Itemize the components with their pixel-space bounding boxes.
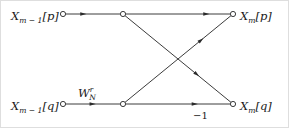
label-minus-one-value: −1 [193, 110, 208, 121]
label-output-p-sub: m [248, 16, 255, 25]
input-node-p [60, 11, 65, 16]
label-input-q-index: [q] [42, 99, 58, 113]
label-output-p-base: X [240, 9, 248, 23]
label-input-p: Xm − 1[p] [11, 7, 59, 23]
label-output-p: Xm[p] [240, 7, 272, 23]
output-node-p [230, 11, 235, 16]
arrowhead-layer [80, 12, 209, 106]
edge-in-q-to-mid-q-arrowhead [90, 102, 96, 106]
label-output-q-sub: m [248, 106, 255, 115]
input-node-q [60, 101, 65, 106]
label-input-p-sub: m − 1 [19, 16, 42, 25]
label-minus-one: −1 [193, 106, 208, 122]
label-input-q-sub: m − 1 [19, 106, 42, 115]
label-output-q-base: X [240, 99, 248, 113]
output-node-q [230, 101, 235, 106]
label-input-q-base: X [11, 99, 19, 113]
middle-node-p [120, 11, 125, 16]
label-output-q-index: [q] [255, 99, 271, 113]
label-twiddle-sub: N [89, 93, 96, 102]
label-output-p-index: [p] [255, 9, 271, 23]
label-input-p-base: X [11, 9, 19, 23]
label-input-q: Xm − 1[q] [11, 97, 59, 113]
edge-in-p-to-mid-p-arrowhead [80, 12, 86, 16]
butterfly-diagram: Xm − 1[p] Xm − 1[q] Xm[p] Xm[q] WrN −1 [0, 0, 289, 128]
edge-mid-p-to-out-p-arrowhead [203, 12, 209, 16]
label-output-q: Xm[q] [240, 97, 272, 113]
label-twiddle-factor: WrN [78, 84, 96, 100]
middle-node-q [120, 101, 125, 106]
label-input-p-index: [p] [42, 9, 58, 23]
